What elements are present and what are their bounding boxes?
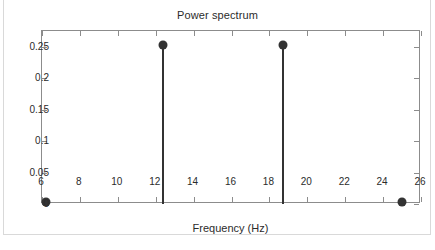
data-point-marker: [398, 198, 407, 207]
x-tick-bottom: [118, 197, 119, 202]
y-tick-right: [414, 141, 419, 142]
stem-line: [282, 47, 284, 204]
x-tick-bottom: [345, 197, 346, 202]
x-tick-top: [345, 31, 346, 36]
stem-line: [162, 47, 164, 204]
x-tick-label: 22: [339, 176, 350, 187]
x-tick-top: [156, 31, 157, 36]
x-tick-top: [269, 31, 270, 36]
x-tick-label: 12: [149, 176, 160, 187]
x-tick-bottom: [80, 197, 81, 202]
data-point-marker: [278, 40, 287, 49]
x-tick-label: 16: [225, 176, 236, 187]
x-tick-label: 10: [111, 176, 122, 187]
y-tick-right: [414, 78, 419, 79]
y-tick-label: 0.2: [35, 72, 49, 83]
x-tick-bottom: [421, 197, 422, 202]
x-tick-bottom: [156, 197, 157, 202]
x-tick-top: [383, 31, 384, 36]
x-tick-label: 14: [187, 176, 198, 187]
x-tick-top: [194, 31, 195, 36]
x-tick-top: [232, 31, 233, 36]
x-tick-top: [421, 31, 422, 36]
x-tick-top: [118, 31, 119, 36]
x-tick-bottom: [269, 197, 270, 202]
data-point-marker: [159, 40, 168, 49]
x-tick-top: [307, 31, 308, 36]
x-tick-top: [42, 31, 43, 36]
x-tick-bottom: [307, 197, 308, 202]
y-tick-right: [414, 173, 419, 174]
x-tick-label: 8: [76, 176, 82, 187]
x-tick-bottom: [383, 197, 384, 202]
x-tick-label: 24: [377, 176, 388, 187]
power-spectrum-figure: Power spectrum Frequency (Hz) 6810121416…: [0, 0, 435, 250]
y-tick-label: 0: [43, 198, 49, 209]
x-tick-top: [80, 31, 81, 36]
x-tick-label: 26: [414, 176, 425, 187]
y-tick-label: 0.15: [30, 103, 49, 114]
y-tick-right: [414, 47, 419, 48]
x-tick-bottom: [194, 197, 195, 202]
chart-title: Power spectrum: [0, 9, 435, 21]
y-tick-right: [414, 204, 419, 205]
x-tick-bottom: [232, 197, 233, 202]
x-axis-title: Frequency (Hz): [41, 222, 420, 234]
x-tick-label: 20: [301, 176, 312, 187]
y-tick-label: 0.1: [35, 135, 49, 146]
x-tick-label: 18: [263, 176, 274, 187]
y-tick-label: 0.05: [30, 166, 49, 177]
x-tick-label: 6: [38, 176, 44, 187]
y-tick-label: 0.25: [30, 40, 49, 51]
y-tick-right: [414, 110, 419, 111]
